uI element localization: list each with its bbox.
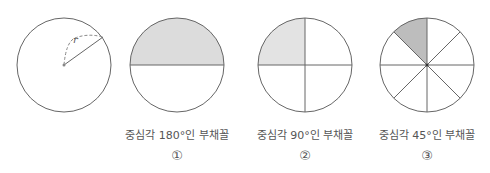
label-2: ② [245,148,365,163]
sector-180 [130,18,224,112]
label-1: ① [117,148,237,163]
label-3: ③ [367,148,487,163]
caption-180: 중심각 180°인 부채꼴 [117,126,237,142]
radius-label: r [73,34,79,45]
caption-90: 중심각 90°인 부채꼴 [245,126,365,142]
caption-45: 중심각 45°인 부채꼴 [367,126,487,142]
sector-45 [380,18,474,112]
base-circle: r [17,18,111,112]
sector-90 [258,18,352,112]
